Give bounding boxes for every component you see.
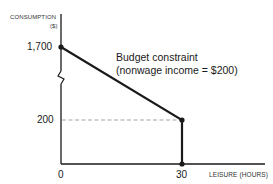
y-axis-unit: ($) bbox=[50, 23, 58, 29]
y-axis-break-icon bbox=[58, 71, 64, 84]
x-tick-30: 30 bbox=[176, 169, 187, 180]
point-30-0 bbox=[179, 161, 184, 166]
y-tick-200: 200 bbox=[37, 114, 54, 125]
point-30-200 bbox=[179, 117, 184, 122]
y-tick-1700: 1,700 bbox=[27, 41, 52, 52]
x-axis-title: LEISURE (HOURS) bbox=[209, 171, 268, 178]
x-tick-0: 0 bbox=[58, 169, 64, 180]
chart-canvas bbox=[0, 0, 273, 184]
point-1700 bbox=[58, 44, 63, 49]
annotation-line-1: Budget constraint bbox=[116, 51, 238, 64]
annotation-line-2: (nonwage income = $200) bbox=[116, 64, 238, 77]
annotation-budget-constraint: Budget constraint (nonwage income = $200… bbox=[116, 51, 238, 77]
y-axis-title: CONSUMPTION bbox=[10, 14, 56, 20]
